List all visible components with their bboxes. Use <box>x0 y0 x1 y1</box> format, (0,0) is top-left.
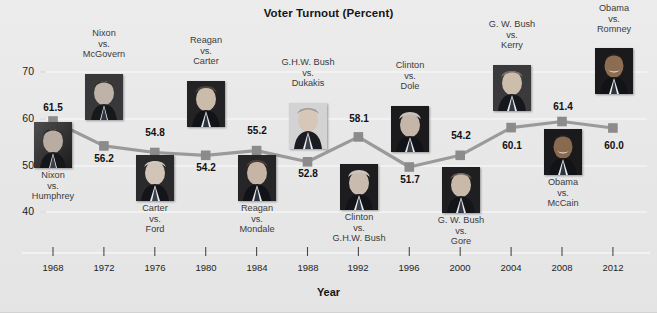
portrait-nixon-1972 <box>85 74 123 120</box>
xtick-label-2012: 2012 <box>590 262 636 273</box>
portrait-reagan-1984 <box>238 155 276 201</box>
matchup-label-1972: Nixon vs. McGovern <box>62 28 146 60</box>
x-axis-title: Year <box>0 286 657 298</box>
plot-area: 70 60 50 40 1968 1972 1976 1980 1984 198… <box>0 0 657 313</box>
portrait-clinton-1992 <box>340 164 378 210</box>
value-label-1996: 51.7 <box>390 174 430 185</box>
matchup-label-1980: Reagan vs. Carter <box>164 35 248 67</box>
ytick-label-60: 60 <box>8 112 34 124</box>
x-axis-ticks <box>53 247 613 256</box>
xtick-label-1976: 1976 <box>132 262 178 273</box>
portrait-ghw-bush-1988 <box>289 103 327 149</box>
voter-turnout-chart: Voter Turnout (Percent) <box>0 0 657 313</box>
xtick-label-1992: 1992 <box>335 262 381 273</box>
portrait-obama-2012 <box>595 48 633 94</box>
value-label-2012: 60.0 <box>594 140 634 151</box>
portrait-carter-1976 <box>136 155 174 201</box>
xtick-label-1984: 1984 <box>234 262 280 273</box>
value-label-2000: 54.2 <box>441 130 481 141</box>
xtick-label-2008: 2008 <box>539 262 585 273</box>
ytick-label-40: 40 <box>8 205 34 217</box>
portrait-obama-2008 <box>544 129 582 175</box>
value-label-1972: 56.2 <box>84 153 124 164</box>
matchup-label-1976: Carter vs. Ford <box>113 203 197 235</box>
portrait-gw-bush-2004 <box>493 65 531 111</box>
value-label-2008: 61.4 <box>543 101 583 112</box>
matchup-label-1992: Clinton vs. G.H.W. Bush <box>317 212 401 244</box>
ytick-label-70: 70 <box>8 65 34 77</box>
xtick-label-2004: 2004 <box>488 262 534 273</box>
value-label-1980: 54.2 <box>186 162 226 173</box>
matchup-label-2008: Obama vs. McCain <box>521 177 605 209</box>
portrait-reagan-1980 <box>187 81 225 127</box>
portrait-clinton-1996 <box>391 106 429 152</box>
value-label-1984: 55.2 <box>237 125 277 136</box>
matchup-label-1968: Nixon vs. Humphrey <box>11 170 95 202</box>
value-label-1988: 52.8 <box>288 168 328 179</box>
value-label-2004: 60.1 <box>492 140 532 151</box>
value-label-1968: 61.5 <box>33 102 73 113</box>
matchup-label-2000: G. W. Bush vs. Gore <box>419 215 503 247</box>
portrait-gw-bush-2000 <box>442 167 480 213</box>
matchup-label-1984: Reagan vs. Mondale <box>215 203 299 235</box>
xtick-label-1980: 1980 <box>183 262 229 273</box>
matchup-label-2004: G. W. Bush vs. Kerry <box>470 19 554 51</box>
matchup-label-1996: Clinton vs. Dole <box>368 60 452 92</box>
xtick-label-1968: 1968 <box>30 262 76 273</box>
value-label-1976: 54.8 <box>135 127 175 138</box>
matchup-label-2012: Obama vs. Romney <box>572 3 656 35</box>
portrait-nixon-1968 <box>34 122 72 168</box>
xtick-label-1996: 1996 <box>386 262 432 273</box>
xtick-label-1972: 1972 <box>81 262 127 273</box>
value-label-1992: 58.1 <box>339 113 379 124</box>
xtick-label-1988: 1988 <box>285 262 331 273</box>
xtick-label-2000: 2000 <box>437 262 483 273</box>
matchup-label-1988: G.H.W. Bush vs. Dukakis <box>266 57 350 89</box>
